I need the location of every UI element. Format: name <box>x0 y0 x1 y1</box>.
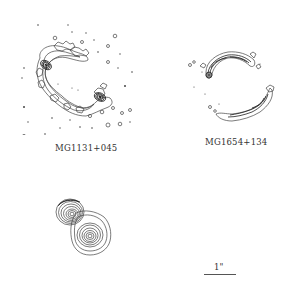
panel-contour-peaks <box>50 195 125 265</box>
contour-map-mg1654 <box>180 40 280 130</box>
source-label-mg1654: MG1654+134 <box>205 137 267 147</box>
contour-map-mg1131 <box>10 10 150 135</box>
figure: MG1131+045 <box>0 0 286 293</box>
scale-bar: 1" <box>204 262 236 282</box>
contour-map-double-peak <box>50 195 125 265</box>
scale-bar-label: 1" <box>214 262 224 272</box>
panel-mg1654 <box>180 40 280 130</box>
source-label-mg1131: MG1131+045 <box>55 143 117 153</box>
panel-mg1131 <box>10 10 150 135</box>
scale-bar-line <box>204 274 236 275</box>
